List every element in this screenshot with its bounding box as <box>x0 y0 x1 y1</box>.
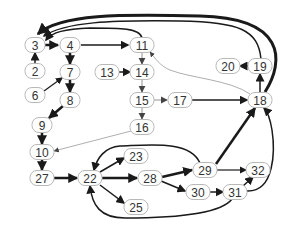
node-label: 20 <box>221 60 235 74</box>
directed-graph: 3411271314681517182019916102722232825293… <box>0 0 295 230</box>
node-label: 29 <box>198 164 212 178</box>
graph-node-16: 16 <box>130 120 154 135</box>
node-label: 17 <box>173 94 187 108</box>
node-label: 32 <box>251 164 265 178</box>
graph-node-7: 7 <box>60 65 80 80</box>
node-label: 14 <box>135 66 149 80</box>
graph-node-22: 22 <box>78 171 102 186</box>
node-label: 8 <box>67 94 74 108</box>
graph-node-3: 3 <box>25 38 45 53</box>
node-label: 4 <box>67 39 74 53</box>
graph-node-10: 10 <box>30 145 54 160</box>
graph-node-2: 2 <box>25 64 45 79</box>
node-label: 7 <box>67 66 74 80</box>
graph-node-32: 32 <box>246 163 270 178</box>
edge-31-32 <box>243 177 253 186</box>
edge-29-18 <box>216 108 255 164</box>
node-label: 9 <box>39 119 46 133</box>
node-label: 27 <box>35 172 49 186</box>
node-label: 25 <box>129 201 143 215</box>
graph-node-23: 23 <box>124 149 148 164</box>
graph-node-17: 17 <box>168 93 192 108</box>
node-label: 31 <box>228 186 242 200</box>
graph-node-4: 4 <box>60 38 80 53</box>
edge-22-23 <box>100 158 124 172</box>
graph-node-8: 8 <box>60 93 80 108</box>
edge-28-29 <box>162 170 192 177</box>
edge-11-3 <box>46 28 142 40</box>
node-label: 16 <box>135 121 149 135</box>
graph-node-9: 9 <box>32 118 52 133</box>
nodes-layer: 3411271314681517182019916102722232825293… <box>25 38 272 215</box>
graph-node-31: 31 <box>223 185 247 200</box>
edge-8-9 <box>49 106 63 118</box>
edge-6-7 <box>44 78 62 91</box>
edge-18-3 <box>38 15 276 92</box>
node-label: 13 <box>100 66 114 80</box>
graph-node-18: 18 <box>248 93 272 108</box>
edge-31-22 <box>90 186 232 218</box>
edge-16-10 <box>54 131 131 151</box>
graph-node-6: 6 <box>25 88 45 103</box>
node-label: 10 <box>35 146 49 160</box>
graph-node-14: 14 <box>130 65 154 80</box>
graph-node-25: 25 <box>124 200 148 215</box>
graph-node-29: 29 <box>193 163 217 178</box>
node-label: 28 <box>143 172 157 186</box>
node-label: 11 <box>136 39 149 53</box>
node-label: 6 <box>32 89 39 103</box>
graph-node-13: 13 <box>95 65 119 80</box>
edge-28-30 <box>161 181 185 191</box>
node-label: 2 <box>32 65 39 79</box>
graph-node-27: 27 <box>30 171 54 186</box>
node-label: 19 <box>253 60 267 74</box>
graph-node-19: 19 <box>248 59 272 74</box>
graph-node-11: 11 <box>130 38 154 53</box>
graph-node-20: 20 <box>216 59 240 74</box>
node-label: 22 <box>83 172 97 186</box>
edge-22-25 <box>100 185 124 203</box>
node-label: 23 <box>129 150 143 164</box>
graph-node-28: 28 <box>138 171 162 186</box>
node-label: 18 <box>253 94 267 108</box>
node-label: 30 <box>191 186 205 200</box>
graph-node-30: 30 <box>186 185 210 200</box>
graph-node-15: 15 <box>130 93 154 108</box>
node-label: 15 <box>135 94 149 108</box>
node-label: 3 <box>32 39 39 53</box>
